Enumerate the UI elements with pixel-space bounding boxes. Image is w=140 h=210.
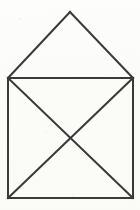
segments-group — [8, 12, 133, 198]
roof-right-edge — [70, 12, 133, 78]
roof-left-edge — [8, 12, 70, 78]
figure-canvas: House figure Line drawing of a square wi… — [0, 0, 140, 210]
house-figure-drawing: House figure Line drawing of a square wi… — [0, 0, 140, 210]
